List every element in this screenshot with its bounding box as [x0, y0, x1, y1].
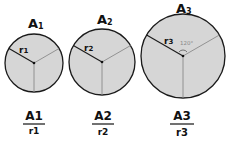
- ratio-denominator-1: r1: [29, 126, 40, 136]
- circle-3: A3 r3 120°: [141, 1, 225, 98]
- circle-1: A1 r1: [5, 16, 63, 92]
- area-label-2: A2: [97, 12, 113, 27]
- center-dot: [33, 62, 36, 65]
- circle-ratio-diagram: A1 r1 A2 r2 A3 r3 120° A1 r1 A2 r2: [0, 0, 227, 143]
- ratio-numerator-2: A2: [94, 109, 112, 123]
- center-dot: [101, 61, 104, 64]
- area-label-1: A1: [28, 16, 44, 31]
- radius-label-3: r3: [164, 36, 173, 46]
- ratio-denominator-3: r3: [176, 127, 188, 138]
- center-dot: [182, 55, 185, 58]
- ratio-numerator-1: A1: [25, 109, 43, 123]
- ratio-denominator-2: r2: [98, 127, 109, 137]
- radius-label-2: r2: [84, 43, 93, 53]
- ratio-numerator-3: A3: [173, 109, 191, 123]
- angle-label: 120°: [180, 40, 193, 46]
- ratio-2: A2 r2: [92, 109, 114, 137]
- circle-2: A2 r2: [69, 12, 135, 95]
- ratio-3: A3 r3: [170, 109, 194, 138]
- radius-label-1: r1: [19, 45, 28, 55]
- ratio-1: A1 r1: [23, 109, 45, 136]
